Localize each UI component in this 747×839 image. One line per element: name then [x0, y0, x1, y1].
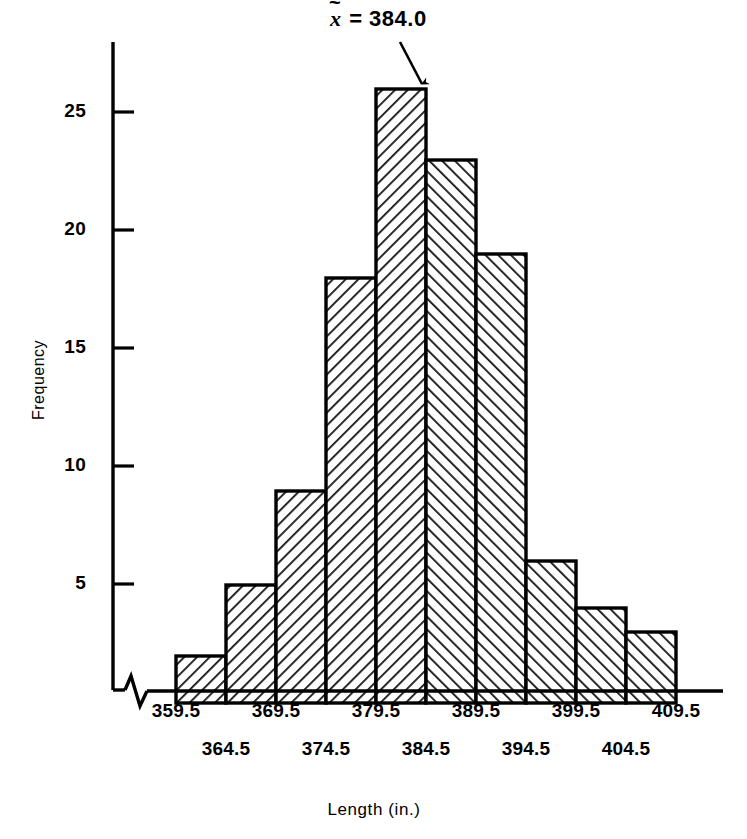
bars-group	[176, 89, 676, 703]
bar-384.5-389.5	[426, 160, 476, 703]
x-tick-label-409.5: 409.5	[631, 700, 721, 722]
x-tick-label-384.5: 384.5	[381, 738, 471, 760]
x-tick-label-369.5: 369.5	[231, 700, 321, 722]
median-value: = 384.0	[349, 6, 427, 31]
median-annotation: ~x = 384.0	[330, 6, 427, 32]
bar-359.5-364.5	[176, 656, 226, 703]
x-tick-label-389.5: 389.5	[431, 700, 521, 722]
x-tick-label-364.5: 364.5	[181, 738, 271, 760]
bar-374.5-379.5	[326, 278, 376, 703]
bar-389.5-394.5	[476, 254, 526, 703]
y-tick-label-5: 5	[40, 572, 86, 594]
bar-379.5-384.5	[376, 89, 426, 703]
tilde-accent-icon: ~	[329, 0, 341, 14]
y-axis-title: Frequency	[30, 340, 48, 420]
histogram-figure: 25 20 15 10 5 359.5 369.5 379.5 389.5 39…	[0, 0, 747, 839]
y-tick-label-25: 25	[40, 100, 86, 122]
bar-369.5-374.5	[276, 491, 326, 703]
median-arrow	[400, 42, 422, 84]
x-axis-title: Length (in.)	[224, 800, 524, 820]
x-tick-label-374.5: 374.5	[281, 738, 371, 760]
x-tick-label-404.5: 404.5	[581, 738, 671, 760]
x-tick-label-399.5: 399.5	[531, 700, 621, 722]
x-tick-label-359.5: 359.5	[131, 700, 221, 722]
x-tick-label-394.5: 394.5	[481, 738, 571, 760]
bar-394.5-399.5	[526, 561, 576, 703]
bar-399.5-404.5	[576, 608, 626, 703]
y-tick-label-10: 10	[40, 454, 86, 476]
bar-364.5-369.5	[226, 585, 276, 703]
median-variable-x: ~x	[330, 6, 343, 31]
x-tick-label-379.5: 379.5	[331, 700, 421, 722]
y-tick-label-20: 20	[40, 218, 86, 240]
